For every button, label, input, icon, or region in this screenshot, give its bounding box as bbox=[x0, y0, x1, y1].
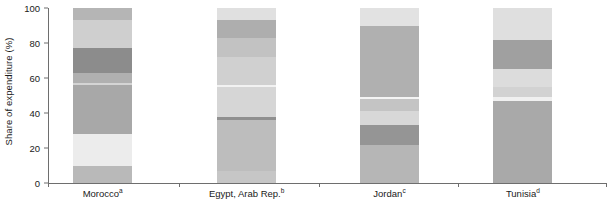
bar-segment[interactable] bbox=[217, 20, 276, 38]
bar-segment[interactable] bbox=[493, 8, 552, 40]
bar-jordan[interactable] bbox=[360, 8, 419, 183]
x-tick-mark-1 bbox=[179, 183, 180, 187]
bar-segment[interactable] bbox=[217, 57, 276, 85]
bar-segment[interactable] bbox=[360, 125, 419, 144]
x-tick-mark-3 bbox=[458, 183, 459, 187]
bar-segment[interactable] bbox=[217, 38, 276, 57]
x-category-name: Morocco bbox=[83, 188, 119, 199]
x-category-footnote: c bbox=[402, 187, 405, 194]
bar-segment[interactable] bbox=[217, 85, 276, 87]
x-category-footnote: b bbox=[281, 187, 285, 194]
bar-segment[interactable] bbox=[493, 40, 552, 70]
x-axis-line bbox=[48, 183, 606, 184]
stacked-bar-chart: Share of expenditure (%) 020406080100 Mo… bbox=[0, 0, 611, 200]
y-tick-mark-20 bbox=[44, 148, 48, 149]
y-tick-mark-100 bbox=[44, 8, 48, 9]
x-category-label-tunisia: Tunisiad bbox=[506, 188, 540, 199]
x-category-name: Tunisia bbox=[506, 188, 536, 199]
x-category-label-morocco: Moroccoa bbox=[83, 188, 123, 199]
y-tick-label-20: 20 bbox=[29, 143, 40, 154]
bar-segment[interactable] bbox=[73, 20, 132, 48]
plot-area bbox=[48, 8, 606, 183]
x-tick-mark-4 bbox=[606, 183, 607, 187]
bar-segment[interactable] bbox=[360, 111, 419, 125]
bar-segment[interactable] bbox=[360, 8, 419, 26]
bar-morocco[interactable] bbox=[73, 8, 132, 183]
y-axis-title-text: Share of expenditure (%) bbox=[3, 37, 14, 145]
y-axis-title: Share of expenditure (%) bbox=[0, 0, 16, 183]
bar-segment[interactable] bbox=[217, 117, 276, 121]
y-tick-label-40: 40 bbox=[29, 108, 40, 119]
bar-segment[interactable] bbox=[360, 26, 419, 98]
x-category-label-egypt-arab-rep: Egypt, Arab Rep.b bbox=[209, 188, 284, 199]
bar-segment[interactable] bbox=[217, 171, 276, 183]
bar-segment[interactable] bbox=[360, 99, 419, 111]
bar-segment[interactable] bbox=[217, 87, 276, 117]
y-tick-label-0: 0 bbox=[35, 178, 40, 189]
x-category-footnote: d bbox=[536, 187, 540, 194]
bar-segment[interactable] bbox=[73, 85, 132, 134]
y-tick-mark-60 bbox=[44, 78, 48, 79]
bar-segment[interactable] bbox=[493, 87, 552, 98]
x-category-name: Jordan bbox=[373, 188, 402, 199]
bar-segment[interactable] bbox=[360, 145, 419, 184]
x-category-name: Egypt, Arab Rep. bbox=[209, 188, 281, 199]
bar-segment[interactable] bbox=[217, 120, 276, 171]
y-tick-label-100: 100 bbox=[24, 3, 40, 14]
bar-segment[interactable] bbox=[73, 134, 132, 166]
y-tick-label-60: 60 bbox=[29, 73, 40, 84]
y-tick-mark-40 bbox=[44, 113, 48, 114]
bar-segment[interactable] bbox=[493, 97, 552, 101]
bar-egypt-arab-rep[interactable] bbox=[217, 8, 276, 183]
x-tick-mark-2 bbox=[319, 183, 320, 187]
x-tick-mark-0 bbox=[48, 183, 49, 187]
bar-segment[interactable] bbox=[73, 166, 132, 184]
bar-segment[interactable] bbox=[493, 69, 552, 87]
bar-segment[interactable] bbox=[73, 83, 132, 85]
bar-segment[interactable] bbox=[217, 8, 276, 20]
y-axis-tick-labels: 020406080100 bbox=[16, 0, 44, 191]
bar-segment[interactable] bbox=[73, 48, 132, 73]
bar-segment[interactable] bbox=[73, 73, 132, 84]
x-category-footnote: a bbox=[119, 187, 123, 194]
x-category-label-jordan: Jordanc bbox=[373, 188, 405, 199]
bar-segment[interactable] bbox=[360, 97, 419, 99]
y-tick-label-80: 80 bbox=[29, 38, 40, 49]
bar-segment[interactable] bbox=[493, 101, 552, 183]
y-tick-mark-80 bbox=[44, 43, 48, 44]
bar-tunisia[interactable] bbox=[493, 8, 552, 183]
bar-segment[interactable] bbox=[73, 8, 132, 20]
